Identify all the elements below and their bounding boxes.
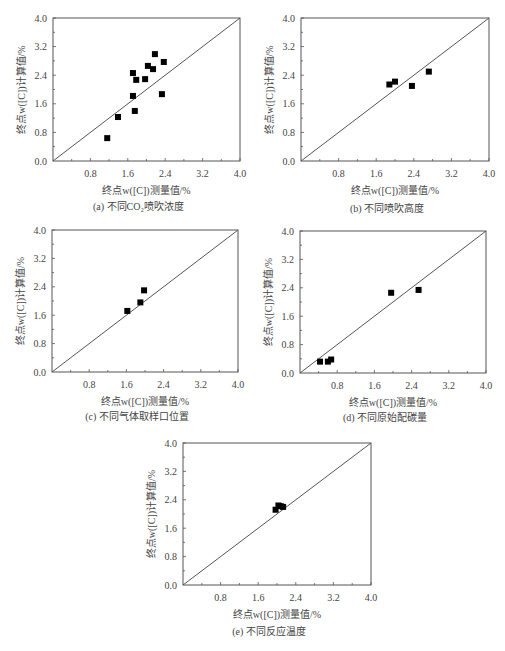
x-tick-label: 1.6 [252, 592, 265, 603]
data-point-marker [159, 91, 165, 97]
reference-line [300, 231, 486, 373]
y-tick-label: 4.0 [35, 13, 48, 24]
y-tick-label: 1.6 [165, 523, 178, 534]
x-tick-label: 1.6 [370, 168, 383, 179]
y-axis-label: 终点w([C])计算值/% [15, 45, 28, 133]
y-tick-label: 2.4 [35, 70, 48, 81]
x-tick-label: 4.0 [234, 168, 247, 179]
x-axis-label: 终点w([C])测量值/% [102, 184, 190, 197]
x-tick-label: 3.2 [445, 168, 458, 179]
x-tick-label: 2.4 [290, 592, 303, 603]
x-tick-label: 2.4 [405, 380, 418, 391]
x-tick-label: 3.2 [443, 380, 456, 391]
panel-caption: (c) 不同气体取样口位置 [85, 410, 189, 423]
x-tick-label: 4.0 [365, 592, 378, 603]
data-point-marker [115, 114, 121, 120]
y-tick-label: 0.8 [34, 338, 47, 349]
y-tick-label: 3.2 [282, 254, 295, 265]
data-point-marker [104, 135, 110, 141]
x-axis-label: 终点w([C])测量值/% [351, 184, 439, 197]
data-point-marker [317, 359, 323, 365]
x-axis-label: 终点w([C])测量值/% [349, 396, 437, 409]
data-point-marker [145, 63, 151, 69]
y-tick-label: 0.0 [35, 156, 48, 167]
panel-c-gas-sampling-position: 0.81.62.43.24.00.00.81.62.43.24.0终点w([C]… [14, 225, 244, 424]
y-tick-label: 1.6 [34, 310, 47, 321]
y-tick-label: 2.4 [282, 282, 295, 293]
y-tick-label: 4.0 [283, 13, 296, 24]
data-point-marker [386, 81, 392, 87]
panel-e-reaction-temperature: 0.81.62.43.24.00.00.81.62.43.24.0终点w([C]… [145, 438, 377, 639]
y-tick-label: 2.4 [34, 281, 47, 292]
reference-line [52, 230, 238, 372]
y-tick-label: 4.0 [34, 225, 47, 236]
y-tick-label: 1.6 [283, 98, 296, 109]
y-axis-label: 终点w([C])计算值/% [263, 45, 276, 133]
x-tick-label: 2.4 [408, 168, 421, 179]
y-tick-label: 0.0 [34, 367, 47, 378]
x-axis-label: 终点w([C])测量值/% [233, 608, 321, 621]
y-tick-label: 1.6 [35, 98, 48, 109]
panel-caption: (d) 不同原始配碳量 [343, 411, 427, 424]
data-point-marker [137, 299, 143, 305]
y-tick-label: 4.0 [282, 226, 295, 237]
x-tick-label: 0.8 [331, 380, 344, 391]
x-tick-label: 4.0 [232, 379, 245, 390]
y-tick-label: 3.2 [35, 41, 48, 52]
y-tick-label: 4.0 [165, 438, 178, 449]
data-point-marker [132, 108, 138, 114]
y-tick-label: 0.8 [35, 127, 48, 138]
y-axis-label: 终点w([C])计算值/% [262, 258, 275, 346]
x-tick-label: 1.6 [122, 168, 135, 179]
y-tick-label: 0.0 [165, 580, 178, 591]
x-tick-label: 4.0 [483, 168, 496, 179]
data-point-marker [150, 66, 156, 72]
reference-line [183, 443, 371, 585]
panel-caption: (b) 不同喷吹高度 [350, 202, 424, 215]
x-tick-label: 3.2 [327, 592, 340, 603]
y-tick-label: 0.0 [283, 156, 296, 167]
data-point-marker [161, 59, 167, 65]
panel-caption: (a) 不同CO₂喷吹浓度 [93, 200, 184, 213]
x-tick-label: 1.6 [368, 380, 381, 391]
data-point-marker [152, 51, 158, 57]
panel-a-co2-concentration: 0.81.62.43.24.00.00.81.62.43.24.0终点w([C]… [15, 13, 246, 214]
y-tick-label: 0.8 [282, 339, 295, 350]
x-axis-label: 终点w([C])测量值/% [101, 395, 189, 408]
x-tick-label: 2.4 [159, 168, 172, 179]
data-point-marker [141, 287, 147, 293]
x-tick-label: 0.8 [83, 379, 96, 390]
reference-line [53, 18, 240, 161]
data-point-marker [388, 290, 394, 296]
y-tick-label: 0.8 [283, 127, 296, 138]
x-tick-label: 3.2 [195, 379, 208, 390]
data-point-marker [426, 69, 432, 75]
y-tick-label: 0.8 [165, 551, 178, 562]
reference-line [301, 18, 489, 161]
data-point-marker [392, 79, 398, 85]
data-point-marker [328, 357, 334, 363]
panel-b-blowing-height: 0.81.62.43.24.00.00.81.62.43.24.0终点w([C]… [263, 13, 495, 216]
y-axis-label: 终点w([C])计算值/% [14, 257, 27, 345]
figure: 0.81.62.43.24.00.00.81.62.43.24.0终点w([C]… [0, 0, 505, 651]
data-point-marker [124, 308, 130, 314]
x-tick-label: 0.8 [332, 168, 345, 179]
data-point-marker [130, 93, 136, 99]
y-tick-label: 1.6 [282, 311, 295, 322]
y-tick-label: 3.2 [283, 41, 296, 52]
data-point-marker [133, 77, 139, 83]
x-tick-label: 2.4 [157, 379, 170, 390]
y-tick-label: 2.4 [165, 494, 178, 505]
y-tick-label: 3.2 [165, 466, 178, 477]
y-tick-label: 0.0 [282, 368, 295, 379]
data-point-marker [130, 70, 136, 76]
x-tick-label: 3.2 [196, 168, 209, 179]
data-point-marker [142, 76, 148, 82]
data-point-marker [280, 504, 286, 510]
y-tick-label: 3.2 [34, 253, 47, 264]
y-tick-label: 2.4 [283, 70, 296, 81]
y-axis-label: 终点w([C])计算值/% [145, 470, 158, 558]
panel-caption: (e) 不同反应温度 [232, 625, 306, 638]
data-point-marker [409, 83, 415, 89]
data-point-marker [416, 287, 422, 293]
